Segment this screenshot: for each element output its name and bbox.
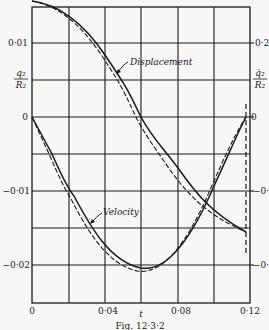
left-tick-3: −0·02 [2, 260, 30, 270]
right-tick-0: 0·2 [255, 38, 269, 48]
left-tick-0: 0·01 [8, 38, 28, 48]
velocity-label: Velocity [103, 207, 140, 217]
left-ylabel-den: R₂ [15, 80, 27, 90]
x-tick-3: 0·12 [240, 306, 260, 316]
chart-figure: Displacement Velocity 0·01 0 −0·01 −0·02… [0, 0, 269, 330]
grid [32, 7, 254, 303]
right-ylabel-num: q̇₂ [255, 68, 265, 78]
left-tick-2: −0·01 [2, 186, 30, 196]
x-tick-2: 0·08 [171, 306, 191, 316]
x-tick-0: 0 [29, 306, 35, 316]
right-tick-1: 0 [251, 112, 257, 122]
x-axis-label: t [139, 309, 143, 319]
left-tick-1: 0 [22, 112, 28, 122]
right-tick-2: −0·2 [253, 186, 269, 196]
displacement-label: Displacement [129, 57, 193, 67]
left-ylabel-num: q₂ [16, 68, 26, 78]
figure-caption: Fig. 12·3·2 [115, 321, 164, 330]
x-tick-1: 0·04 [98, 306, 118, 316]
right-tick-3: −0·4 [253, 260, 269, 270]
right-ylabel-den: R₂ [254, 80, 266, 90]
